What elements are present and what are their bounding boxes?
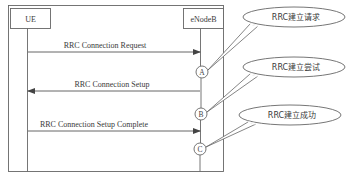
callout-text: RRC建立成功 [268,110,316,120]
sequence-diagram: UE eNodeB RRC Connection Request RRC Con… [0,0,354,179]
svg-text:B: B [198,110,203,119]
marker-c: C [194,143,206,155]
participant-enodeb-label: eNodeB [190,15,216,24]
callout-rrc-attempt: RRC建立尝试 [207,57,345,112]
marker-a: A [196,66,208,78]
message-rrc-connection-request: RRC Connection Request [28,41,200,52]
callout-rrc-success: RRC建立成功 [206,105,341,147]
participant-enodeb: eNodeB [184,9,224,29]
message-rrc-connection-setup-complete: RRC Connection Setup Complete [28,120,200,131]
message-label: RRC Connection Setup [74,80,149,89]
callout-text: RRC建立请求 [272,12,320,22]
message-rrc-connection-setup: RRC Connection Setup [28,80,200,91]
participant-ue-label: UE [25,15,36,24]
callout-text: RRC建立尝试 [272,62,320,72]
marker-b: B [195,108,207,120]
message-label: RRC Connection Setup Complete [40,120,149,129]
message-label: RRC Connection Request [64,41,147,50]
svg-text:C: C [197,145,202,154]
svg-text:A: A [199,68,205,77]
participant-ue: UE [11,9,51,29]
